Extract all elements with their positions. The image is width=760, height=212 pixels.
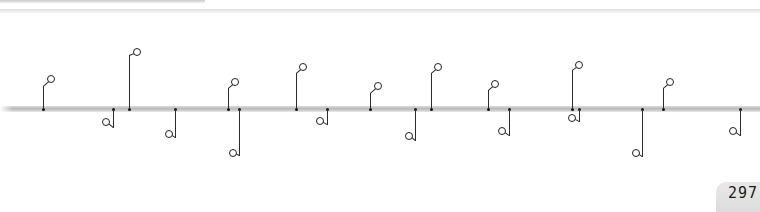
event-ring-icon xyxy=(374,82,382,90)
event-ring-icon xyxy=(405,132,413,140)
event-stem xyxy=(370,93,371,109)
event-ring-icon xyxy=(102,118,110,126)
event-stem xyxy=(239,109,240,156)
top-rule xyxy=(0,9,760,13)
event-stem xyxy=(43,86,44,109)
event-ring-icon xyxy=(498,127,506,135)
event-stem xyxy=(431,73,432,109)
event-stem xyxy=(113,109,114,128)
event-ring-icon xyxy=(316,117,324,125)
event-stem xyxy=(175,109,176,138)
event-ring-icon xyxy=(47,75,55,83)
event-stem xyxy=(488,90,489,109)
event-ring-icon xyxy=(568,114,576,122)
page-number: 297 xyxy=(728,184,758,202)
event-ring-icon xyxy=(229,149,237,157)
event-stem xyxy=(415,109,416,141)
event-stem xyxy=(740,109,741,136)
event-stem xyxy=(509,109,510,136)
event-ring-icon xyxy=(165,130,173,138)
event-ring-icon xyxy=(299,63,307,71)
event-stem xyxy=(663,88,664,109)
event-ring-icon xyxy=(231,78,239,86)
event-ring-icon xyxy=(133,48,141,56)
event-stem xyxy=(129,55,130,109)
axis-fade xyxy=(0,100,12,118)
event-ring-icon xyxy=(666,78,674,86)
event-stem xyxy=(296,73,297,109)
event-ring-icon xyxy=(575,61,583,69)
event-ring-icon xyxy=(434,63,442,71)
event-stem xyxy=(642,109,643,157)
event-stem xyxy=(327,109,328,125)
top-shade xyxy=(0,0,205,3)
event-stem xyxy=(572,70,573,109)
event-ring-icon xyxy=(632,149,640,157)
event-ring-icon xyxy=(729,127,737,135)
event-ring-icon xyxy=(491,80,499,88)
event-stem xyxy=(228,88,229,109)
